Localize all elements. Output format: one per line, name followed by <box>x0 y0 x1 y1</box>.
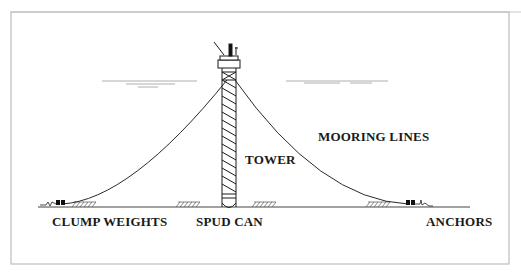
water-surface-right <box>286 81 388 83</box>
label-mooring-lines: MOORING LINES <box>318 129 429 145</box>
diagram-canvas: TOWER MOORING LINES CLUMP WEIGHTS SPUD C… <box>0 0 521 277</box>
anchors-icon <box>406 200 433 206</box>
platform-deck-icon <box>214 42 240 68</box>
water-surface-left <box>102 81 197 87</box>
seabed-hatching <box>72 202 390 207</box>
label-clump-weights: CLUMP WEIGHTS <box>52 214 167 230</box>
clump-weights-icon <box>40 200 65 206</box>
mooring-line-left <box>62 80 227 204</box>
label-tower: TOWER <box>245 152 296 168</box>
label-anchors: ANCHORS <box>426 214 492 230</box>
label-spud-can: SPUD CAN <box>196 214 263 230</box>
diagram-svg <box>0 0 521 277</box>
tower-icon <box>222 68 236 208</box>
